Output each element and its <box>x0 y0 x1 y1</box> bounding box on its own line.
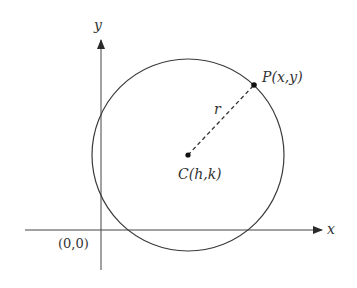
radius-line <box>188 85 254 155</box>
radius-label: r <box>214 101 222 117</box>
origin-label: (0,0) <box>58 236 89 251</box>
x-axis-label: x <box>327 221 335 237</box>
center-point <box>185 152 190 157</box>
circle-diagram: y x (0,0) P(x,y) r C(h,k) <box>0 0 357 288</box>
center-label: C(h,k) <box>178 166 222 182</box>
point-p <box>251 82 257 88</box>
y-axis-label: y <box>93 17 103 33</box>
point-p-label: P(x,y) <box>261 69 303 85</box>
